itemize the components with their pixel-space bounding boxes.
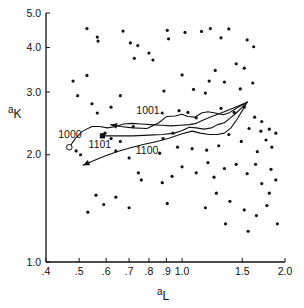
scatter-point <box>208 79 211 82</box>
scatter-point <box>219 36 222 39</box>
scatter-point <box>270 146 273 149</box>
scatter-point <box>212 176 215 179</box>
scatter-point <box>121 29 124 32</box>
x-tick-label: 2.0 <box>278 265 293 277</box>
scatter-point <box>133 57 136 60</box>
scatter-point <box>243 208 246 211</box>
scatter-point <box>235 163 238 166</box>
scatter-point <box>96 35 99 38</box>
x-axis-label-subscript: L <box>163 289 170 303</box>
scatter-point <box>215 192 218 195</box>
scatter-point <box>161 111 164 114</box>
scatter-point <box>247 230 250 233</box>
x-tick-label: .8 <box>145 265 154 277</box>
scatter-point <box>205 149 208 152</box>
scatter-point <box>94 194 97 197</box>
scatter-point <box>200 30 203 33</box>
x-tick-label: 1.5 <box>235 265 250 277</box>
scatter-point <box>96 111 99 114</box>
trajectory-label-1001: 1001 <box>136 104 160 116</box>
scatter-series <box>71 27 279 233</box>
scatter-point <box>224 222 227 225</box>
scatter-point <box>217 144 220 147</box>
scatter-point <box>228 200 231 203</box>
scatter-point <box>247 127 250 130</box>
scatter-point <box>204 91 207 94</box>
scatter-point <box>276 222 279 225</box>
trajectory-label-1000: 1000 <box>58 128 82 140</box>
scatter-point <box>255 214 258 217</box>
y-tick-label: 4.0 <box>26 41 41 53</box>
scatter-point <box>235 62 238 65</box>
scatter-point <box>129 41 132 44</box>
scatter-point <box>75 149 78 152</box>
scatter-point <box>176 146 179 149</box>
scatter-point <box>268 192 271 195</box>
scatter-point <box>183 31 186 34</box>
x-tick-label: .4 <box>42 265 51 277</box>
x-tick-label: .5 <box>75 265 84 277</box>
scatter-point <box>166 202 169 205</box>
scatter-point <box>243 67 246 70</box>
scatter-point <box>240 140 243 143</box>
scatter-point <box>86 211 89 214</box>
scatter-point <box>147 51 150 54</box>
scatter-point <box>204 206 207 209</box>
trajectory-start-arrow-icon <box>111 123 118 129</box>
scatter-point <box>71 79 74 82</box>
y-tick-label: 3.0 <box>26 86 41 98</box>
y-axis-label: aK <box>8 104 22 121</box>
scatter-point <box>137 171 140 174</box>
y-tick-label: 1.0 <box>26 256 41 268</box>
scatter-point <box>246 38 249 41</box>
scatter-point <box>227 27 230 30</box>
scatter-point <box>161 181 164 184</box>
scatter-point <box>223 167 226 170</box>
x-axis-label: aL <box>157 286 169 303</box>
scatter-point <box>264 138 267 141</box>
scatter-point <box>140 178 143 181</box>
scatter-point <box>90 102 93 105</box>
scatter-point <box>167 37 170 40</box>
y-axis-label-subscript: K <box>14 107 22 121</box>
scatter-point <box>252 45 255 48</box>
scatter-point <box>206 161 209 164</box>
scatter-point <box>79 153 82 156</box>
scatter-point <box>136 44 139 47</box>
scatter-point <box>180 165 183 168</box>
scatter-point <box>162 89 165 92</box>
scatter-point <box>214 69 217 72</box>
scatter-point <box>219 107 222 110</box>
scatter-point <box>128 206 131 209</box>
scatter-point <box>274 178 277 181</box>
scatter-point <box>85 27 88 30</box>
scatter-point <box>246 172 249 175</box>
y-tick-label: 2.0 <box>26 148 41 160</box>
scatter-plot-svg: .4.5.6.7.8.91.01.52.01.02.03.04.05.01000… <box>0 0 304 308</box>
scatter-point <box>269 168 272 171</box>
scatter-point <box>102 203 105 206</box>
scatter-point <box>259 130 262 133</box>
scatter-point <box>186 111 189 114</box>
scatter-point <box>191 147 194 150</box>
trajectory-label-1101: 1101 <box>89 138 112 150</box>
scatter-point <box>114 196 117 199</box>
scatter-point <box>166 29 169 32</box>
scatter-point <box>268 128 271 131</box>
scatter-point <box>253 116 256 119</box>
trajectory-start-open-circle-icon <box>67 144 73 150</box>
scatter-point <box>109 106 112 109</box>
scatter-point <box>227 133 230 136</box>
x-tick-label: .7 <box>125 265 134 277</box>
scatter-point <box>274 132 277 135</box>
trajectory-line-1101 <box>102 102 247 136</box>
trajectory-1001: 1001 <box>111 102 248 129</box>
y-tick-label: 5.0 <box>26 7 41 19</box>
scatter-point <box>119 140 122 143</box>
scatter-point <box>265 204 268 207</box>
scatter-point <box>239 87 242 90</box>
scatter-point <box>254 163 257 166</box>
scatter-point <box>151 58 154 61</box>
scatter-point <box>180 73 183 76</box>
scatter-point <box>260 120 263 123</box>
